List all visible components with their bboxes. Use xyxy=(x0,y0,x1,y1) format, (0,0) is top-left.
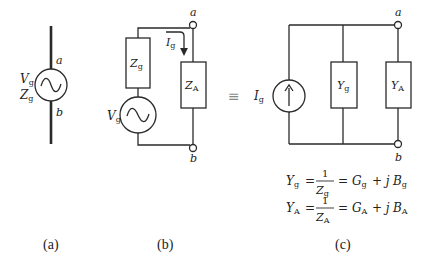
terminal-b-label: b xyxy=(190,152,197,165)
svg-text:=: = xyxy=(338,201,348,215)
svg-text:1: 1 xyxy=(322,168,328,179)
terminal-b-label: b xyxy=(395,151,402,164)
terminal-a-label: a xyxy=(190,6,197,19)
svg-text:ZA: ZA xyxy=(315,211,330,225)
terminal-b-label: b xyxy=(56,106,63,119)
svg-text:YA: YA xyxy=(286,201,300,216)
label-zg: Zg xyxy=(19,88,33,103)
panel-c-labels: Ig Yg YA a b Yg = 1 Zg = Gg + j Bg YA = … xyxy=(253,6,408,253)
svg-text:=: = xyxy=(305,174,315,188)
svg-text:=: = xyxy=(338,174,348,188)
svg-text:Bg: Bg xyxy=(392,174,407,189)
circuit-figure: Vg Zg a b (a) Zg ZA Vg Ig a b (b) xyxy=(0,0,430,268)
label-vg: Vg xyxy=(107,109,121,124)
terminal-b xyxy=(395,141,402,148)
caption-b: (b) xyxy=(157,237,174,253)
terminal-a-label: a xyxy=(395,6,402,19)
current-source-icon xyxy=(273,80,305,112)
svg-text:Yg: Yg xyxy=(286,174,299,189)
equivalence-symbol: ≡ xyxy=(228,88,240,104)
terminal-a xyxy=(395,22,402,29)
panel-a: Vg Zg a b (a) xyxy=(19,26,67,253)
svg-text:BA: BA xyxy=(392,201,408,216)
svg-text:+ j: + j xyxy=(372,201,390,215)
svg-text:+ j: + j xyxy=(372,174,390,188)
label-ig: Ig xyxy=(253,89,264,104)
caption-c: (c) xyxy=(335,237,351,253)
label-ig: Ig xyxy=(165,36,175,50)
equation-yg: Yg = 1 Zg = Gg + j Bg xyxy=(286,168,407,198)
panel-b-labels: Zg ZA Vg Ig a b (b) xyxy=(107,6,199,253)
wire-bottom xyxy=(138,133,190,145)
svg-text:=: = xyxy=(305,201,315,215)
equation-ya: YA = 1 ZA = GA + j BA xyxy=(286,195,408,225)
terminal-a-label: a xyxy=(56,54,63,67)
ac-source-icon xyxy=(120,97,156,133)
svg-text:1: 1 xyxy=(322,195,328,206)
terminal-a xyxy=(190,22,197,29)
ac-source-icon xyxy=(35,69,67,101)
svg-text:GA: GA xyxy=(352,201,368,216)
label-vg: Vg xyxy=(20,72,34,87)
terminal-b xyxy=(190,145,197,152)
caption-a: (a) xyxy=(43,237,59,253)
svg-text:Gg: Gg xyxy=(352,174,367,189)
